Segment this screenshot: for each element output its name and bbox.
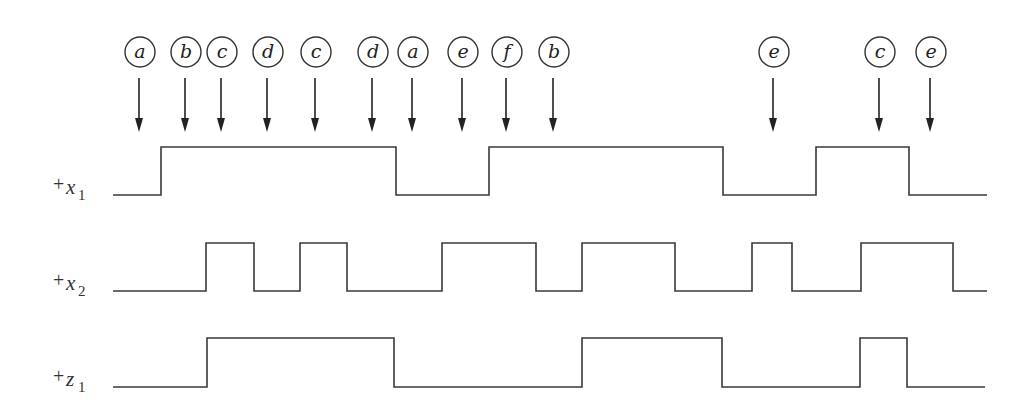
arrowhead-icon	[549, 118, 557, 132]
event-label: c	[311, 40, 322, 62]
event-marker-f: f	[492, 37, 522, 132]
event-label: a	[407, 40, 418, 62]
timing-diagram: abcdcdaefbece +x1+x2+z1	[0, 0, 1036, 414]
signal-label-z1: +z1	[53, 365, 86, 395]
event-marker-d: d	[253, 37, 283, 132]
event-label: a	[134, 40, 145, 62]
svg-text:1: 1	[78, 379, 86, 395]
signal-labels: +x1+x2+z1	[53, 173, 86, 395]
svg-text:+: +	[53, 269, 64, 291]
waveform-z1	[113, 338, 985, 387]
event-label: e	[925, 40, 936, 62]
event-marker-c: c	[301, 37, 331, 132]
arrowhead-icon	[408, 118, 416, 132]
arrowhead-icon	[263, 118, 271, 132]
arrowhead-icon	[217, 118, 225, 132]
event-marker-a: a	[125, 37, 155, 132]
arrowhead-icon	[135, 118, 143, 132]
event-label: b	[180, 40, 192, 62]
svg-text:x: x	[65, 271, 76, 295]
arrowhead-icon	[311, 118, 319, 132]
event-label: e	[457, 40, 468, 62]
event-marker-e: e	[916, 37, 946, 132]
arrowhead-icon	[769, 118, 777, 132]
event-label: e	[768, 40, 779, 62]
event-label: d	[367, 40, 379, 62]
waveform-x2	[113, 243, 987, 291]
svg-text:1: 1	[78, 187, 86, 203]
svg-text:+: +	[53, 173, 64, 195]
arrowhead-icon	[458, 118, 466, 132]
svg-text:2: 2	[78, 283, 86, 299]
event-marker-e: e	[448, 37, 478, 132]
event-marker-b: b	[539, 37, 569, 132]
event-marker-d: d	[358, 37, 388, 132]
event-marker-a: a	[398, 37, 428, 132]
waveform-x1	[113, 147, 987, 195]
arrowhead-icon	[926, 118, 934, 132]
svg-text:z: z	[65, 367, 74, 391]
event-marker-c: c	[207, 37, 237, 132]
arrowhead-icon	[181, 118, 189, 132]
arrowhead-icon	[368, 118, 376, 132]
event-marker-e: e	[759, 37, 789, 132]
arrowhead-icon	[502, 118, 510, 132]
event-marker-c: c	[865, 37, 895, 132]
event-label: c	[875, 40, 886, 62]
event-label: c	[217, 40, 228, 62]
signal-waveforms	[113, 147, 987, 387]
arrowhead-icon	[875, 118, 883, 132]
svg-text:+: +	[53, 365, 64, 387]
svg-text:x: x	[65, 175, 76, 199]
signal-label-x1: +x1	[53, 173, 86, 203]
event-marker-b: b	[171, 37, 201, 132]
signal-label-x2: +x2	[53, 269, 86, 299]
event-label: d	[262, 40, 274, 62]
event-markers: abcdcdaefbece	[125, 37, 946, 132]
event-label: b	[548, 40, 560, 62]
